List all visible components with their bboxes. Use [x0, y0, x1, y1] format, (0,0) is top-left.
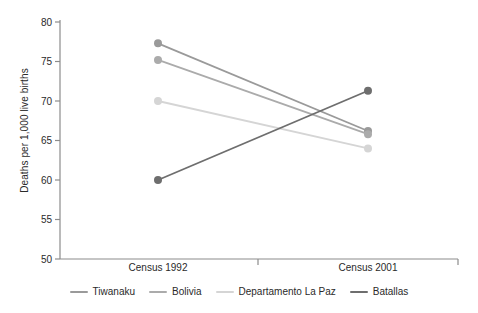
data-series-layer	[154, 39, 372, 184]
chart-legend: Tiwanaku Bolivia Departamento La Paz Bat…	[0, 286, 478, 297]
legend-item-tiwanaku[interactable]: Tiwanaku	[70, 286, 135, 297]
legend-line-icon	[350, 291, 368, 293]
legend-item-bolivia[interactable]: Bolivia	[149, 286, 201, 297]
legend-label: Batallas	[373, 286, 409, 297]
axis-lines	[55, 20, 458, 265]
data-point-marker	[154, 176, 162, 184]
x-tick-label-census-2001: Census 2001	[308, 262, 428, 273]
legend-line-icon	[216, 291, 234, 293]
series-bolivia	[154, 56, 372, 138]
series-line	[158, 60, 368, 134]
legend-item-batallas[interactable]: Batallas	[350, 286, 409, 297]
series-tiwanaku	[154, 39, 372, 135]
data-point-marker	[154, 39, 162, 47]
data-point-marker	[364, 144, 372, 152]
data-point-marker	[364, 130, 372, 138]
data-point-marker	[154, 56, 162, 64]
legend-label: Bolivia	[172, 286, 201, 297]
data-point-marker	[364, 87, 372, 95]
legend-label: Departamento La Paz	[239, 286, 336, 297]
series-line	[158, 91, 368, 180]
legend-line-icon	[149, 291, 167, 293]
legend-item-departamento-la-paz[interactable]: Departamento La Paz	[216, 286, 336, 297]
legend-line-icon	[70, 291, 88, 293]
series-line	[158, 43, 368, 131]
slopegraph-chart: Deaths per 1,000 live births 80 75 70 65…	[0, 0, 478, 313]
x-tick-label-census-1992: Census 1992	[98, 262, 218, 273]
series-batallas	[154, 87, 372, 184]
legend-label: Tiwanaku	[93, 286, 135, 297]
data-point-marker	[154, 97, 162, 105]
series-line	[158, 101, 368, 148]
